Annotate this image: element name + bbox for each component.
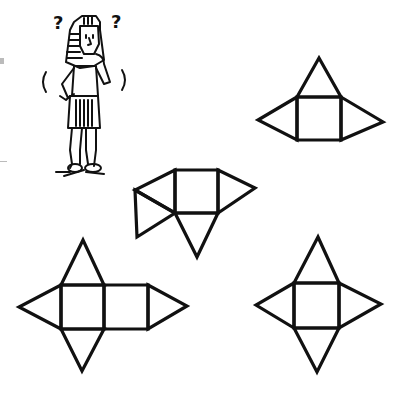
net-a-top-triangle — [297, 58, 341, 97]
net-a[interactable] — [258, 58, 383, 140]
net-c-left-triangle — [19, 285, 61, 329]
question-mark-right: ? — [111, 11, 121, 32]
net-a-left-triangle — [258, 97, 297, 140]
net-b-outer-triangle — [135, 190, 175, 237]
net-d-bottom-triangle — [294, 328, 339, 372]
net-b-right-triangle — [218, 170, 255, 213]
net-c-square-1 — [61, 285, 104, 329]
net-b[interactable] — [135, 170, 255, 257]
net-d-right-triangle — [339, 283, 381, 328]
net-c-right-triangle — [148, 285, 187, 329]
net-c-top-triangle — [61, 240, 104, 285]
net-c-square-2 — [104, 285, 148, 329]
net-a-square — [297, 97, 341, 140]
net-c[interactable] — [19, 240, 187, 371]
net-a-right-triangle — [341, 97, 383, 140]
net-d[interactable] — [256, 237, 381, 372]
net-b-square — [175, 170, 218, 213]
question-mark-left: ? — [53, 12, 63, 33]
net-d-square — [294, 283, 339, 328]
pharaoh-figure: ? ? — [43, 11, 125, 176]
net-b-left-triangle — [135, 170, 175, 213]
net-d-left-triangle — [256, 283, 294, 328]
illustration-canvas: ? ? — [0, 0, 402, 398]
net-b-bottom-triangle — [175, 213, 218, 257]
net-d-top-triangle — [294, 237, 339, 283]
net-c-bottom-triangle — [61, 329, 104, 371]
